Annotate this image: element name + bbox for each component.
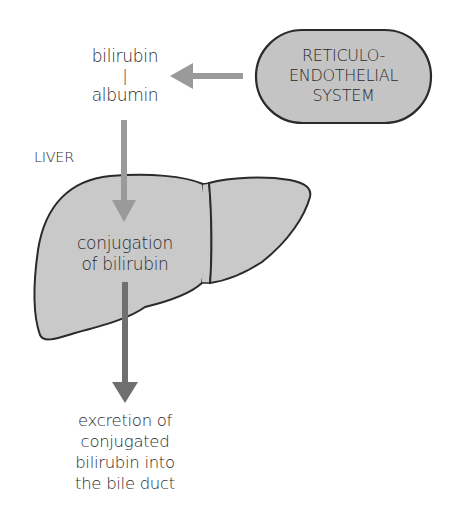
conjugation-line-2: of bilirubin xyxy=(60,254,190,275)
res-line-1: RETICULO- xyxy=(256,46,431,66)
res-line-3: SYSTEM xyxy=(256,86,431,106)
bilirubin-albumin-label: bilirubin | albumin xyxy=(72,46,178,106)
excretion-line-3: bilirubin into xyxy=(55,452,195,473)
excretion-label: excretion of conjugated bilirubin into t… xyxy=(55,410,195,494)
bilirubin-text: bilirubin xyxy=(72,46,178,67)
bond-connector: | xyxy=(72,67,178,85)
excretion-line-1: excretion of xyxy=(55,410,195,431)
res-line-2: ENDOTHELIAL xyxy=(256,66,431,86)
excretion-line-4: the bile duct xyxy=(55,473,195,494)
albumin-text: albumin xyxy=(72,85,178,106)
conjugation-line-1: conjugation xyxy=(60,233,190,254)
liver-label: LIVER xyxy=(34,148,74,166)
conjugation-label: conjugation of bilirubin xyxy=(60,233,190,275)
excretion-line-2: conjugated xyxy=(55,431,195,452)
res-node-label: RETICULO- ENDOTHELIAL SYSTEM xyxy=(256,46,431,106)
arrow-res-to-bilirubin xyxy=(170,63,243,89)
